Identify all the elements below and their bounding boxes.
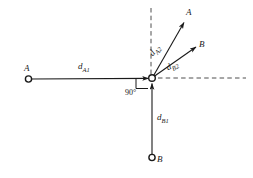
segment-label-d-a1-sub: A1: [83, 66, 90, 73]
node-marker-a-left: [25, 76, 31, 82]
diagram-canvas: A B A B dA1 dB1 dA2 dB2 90°: [0, 0, 253, 178]
angle-label-90-degrees: 90°: [125, 89, 136, 97]
segment-label-d-a1: dA1: [78, 62, 90, 73]
node-label-a-upper-right: A: [186, 8, 192, 17]
node-label-a-left: A: [24, 64, 30, 73]
right-angle-marker: [136, 79, 148, 89]
segment-label-d-b1-sub: B1: [162, 117, 169, 124]
node-label-b-bottom: B: [157, 155, 163, 164]
node-label-b-right: B: [199, 40, 205, 49]
node-marker-vertex: [149, 75, 156, 82]
node-marker-b-bottom: [149, 154, 155, 160]
segment-d-a1: [31, 78, 149, 79]
segment-label-d-b1: dB1: [157, 113, 169, 124]
